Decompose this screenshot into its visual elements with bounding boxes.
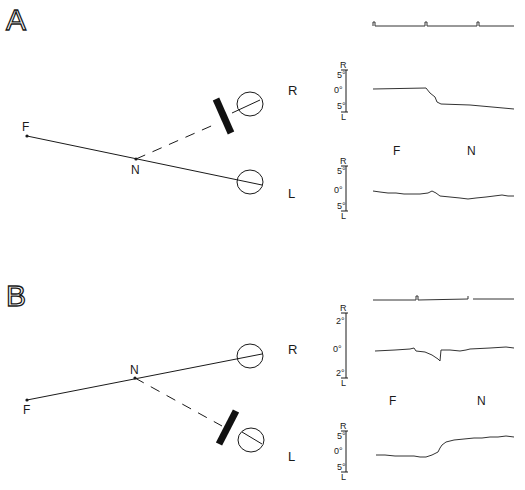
panel-b-phase-far: F [389,394,396,408]
far-target-label: F [23,403,30,417]
scale-bottom-label: L [341,472,346,482]
occluded-left-eye-line [135,378,222,426]
panel-b-left-eye-trace [376,436,514,457]
right-eye-label: R [288,342,297,357]
occluder-icon [216,99,231,133]
panel-b-marker-trace [373,296,514,300]
right-eye-line-of-sight [27,354,262,400]
scale-top-label: R [340,60,347,70]
panel-b-letter: B [6,279,26,312]
figure: A F N R L R 5° 0° 5° L [0,0,525,490]
panel-a-phase-near: N [467,144,476,158]
panel-b-diagram: F N R L [23,342,297,464]
panel-b-right-scale: R 2° 0° 2° L [333,303,348,388]
scale-lower-label: 5° [337,201,346,211]
right-eye-icon [237,92,263,116]
left-eye-label: L [288,449,295,464]
panel-a-left-eye-trace [373,191,514,199]
occluded-right-eye-line [136,123,218,159]
panel-a-right-eye-trace [373,88,514,109]
scale-upper-label: 5° [337,70,346,80]
panel-a-diagram: F N R L [22,83,297,201]
scale-zero-label: 0° [334,85,343,95]
left-eye-axis [242,432,262,444]
scale-top-label: R [340,421,347,431]
panel-b: B F N R L R 2° 0° 2° L F N [6,279,514,482]
panel-a-letter: A [6,3,26,36]
left-eye-label: L [288,186,295,201]
panel-a-phase-far: F [393,144,400,158]
right-eye-label: R [288,83,297,98]
panel-a-marker-trace [373,22,514,26]
scale-upper-label: 5° [337,431,346,441]
scale-upper-label: 5° [337,166,346,176]
scale-bottom-label: L [341,378,346,388]
left-eye-icon [238,428,264,452]
near-target-label: N [130,363,139,377]
panel-b-phase-near: N [477,394,486,408]
scale-upper-label: 2° [336,316,345,326]
panel-a-left-scale: R 5° 0° 5° L [334,156,348,221]
panel-a-right-scale: R 5° 0° 5° L [334,60,348,122]
near-target-label: N [131,163,140,177]
scale-zero-label: 0° [334,446,343,456]
scale-top-label: R [340,156,347,166]
occluder-icon [219,411,236,444]
scale-top-label: R [340,303,347,313]
far-target-label: F [22,120,29,134]
scale-lower-label: 2° [336,368,345,378]
scale-lower-label: 5° [337,462,346,472]
panel-b-right-eye-trace [375,347,514,361]
left-eye-line-of-sight [27,136,262,185]
panel-a: A F N R L R 5° 0° 5° L [6,3,514,221]
scale-lower-label: 5° [337,101,346,111]
scale-bottom-label: L [341,211,346,221]
scale-zero-label: 0° [334,185,343,195]
panel-b-left-scale: R 5° 0° 5° L [334,421,348,482]
scale-zero-label: 0° [333,344,342,354]
scale-bottom-label: L [341,112,346,122]
right-eye-axis [232,100,260,113]
